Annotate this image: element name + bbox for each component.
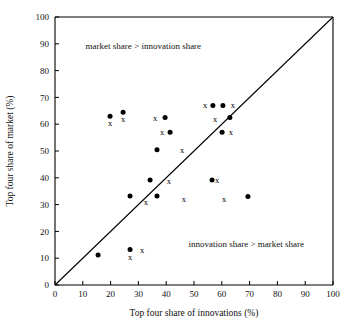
- data-point-circle: [128, 194, 133, 199]
- x-tick-label-60: 60: [217, 289, 227, 299]
- data-point-x: x: [140, 245, 145, 255]
- data-point-x: x: [167, 176, 172, 186]
- scatter-plot: 0102030405060708090100 01020304050607080…: [0, 0, 352, 327]
- data-point-x: x: [213, 114, 218, 124]
- data-point-x: x: [222, 194, 227, 204]
- data-point-x: x: [121, 114, 126, 124]
- data-point-x: x: [182, 194, 187, 204]
- data-point-circle: [155, 147, 160, 152]
- x-tick-label-70: 70: [245, 289, 255, 299]
- data-point-circle: [210, 103, 215, 108]
- x-tick-label-100: 100: [326, 289, 340, 299]
- data-point-circle: [155, 194, 160, 199]
- y-tick-label-20: 20: [40, 227, 50, 237]
- data-point-circle: [168, 130, 173, 135]
- data-point-x: x: [128, 252, 133, 262]
- data-point-x: x: [160, 127, 165, 137]
- y-tick-label-90: 90: [40, 39, 50, 49]
- data-point-circle: [163, 115, 168, 120]
- data-point-x: x: [203, 100, 208, 110]
- y-tick-label-0: 0: [45, 280, 50, 290]
- x-tick-label-50: 50: [190, 289, 200, 299]
- chart-figure: 0102030405060708090100 01020304050607080…: [0, 0, 352, 327]
- y-tick-label-40: 40: [40, 173, 50, 183]
- data-point-circle: [96, 252, 101, 257]
- data-point-circle: [227, 115, 232, 120]
- y-axis-title: Top four share of market (%): [5, 96, 16, 207]
- x-tick-label-10: 10: [78, 289, 88, 299]
- data-point-x: x: [153, 113, 158, 123]
- x-tick-label-30: 30: [134, 289, 144, 299]
- data-point-x: x: [108, 118, 113, 128]
- x-tick-label-80: 80: [273, 289, 283, 299]
- y-tick-label-80: 80: [40, 66, 50, 76]
- data-point-circle: [220, 130, 225, 135]
- data-point-circle: [210, 177, 215, 182]
- y-tick-label-100: 100: [36, 12, 50, 22]
- x-axis-title: Top four share of innovations (%): [130, 308, 259, 319]
- data-point-x: x: [229, 127, 234, 137]
- y-tick-label-10: 10: [40, 253, 50, 263]
- data-point-x: x: [215, 175, 220, 185]
- y-tick-label-60: 60: [40, 119, 50, 129]
- data-point-x: x: [231, 100, 236, 110]
- data-point-circle: [245, 194, 250, 199]
- x-tick-label-0: 0: [53, 289, 58, 299]
- data-point-x: x: [144, 197, 149, 207]
- x-tick-label-20: 20: [106, 289, 116, 299]
- x-tick-label-90: 90: [301, 289, 311, 299]
- innovation-share-greater: innovation share > market share: [188, 239, 304, 249]
- data-point-circle: [220, 103, 225, 108]
- data-point-circle: [148, 177, 153, 182]
- y-tick-label-50: 50: [40, 146, 50, 156]
- x-tick-label-40: 40: [162, 289, 172, 299]
- y-tick-label-30: 30: [40, 200, 50, 210]
- market-share-greater: market share > innovation share: [86, 41, 202, 51]
- y-tick-label-70: 70: [40, 93, 50, 103]
- data-point-x: x: [180, 145, 185, 155]
